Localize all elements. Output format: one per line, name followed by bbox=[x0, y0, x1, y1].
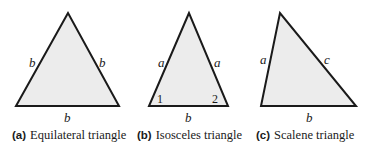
caption-tag: (c) bbox=[256, 129, 270, 141]
side-label-base: b bbox=[306, 110, 313, 125]
angle-label-1: 1 bbox=[157, 92, 163, 106]
angle-label-2: 2 bbox=[212, 92, 218, 106]
caption-tag: (a) bbox=[12, 129, 26, 141]
side-label-left: b bbox=[29, 55, 36, 70]
caption-isosceles: (b)Isosceles triangle bbox=[137, 128, 242, 143]
caption-text: Scalene triangle bbox=[274, 128, 354, 142]
side-label-left: a bbox=[260, 52, 267, 67]
side-label-base: b bbox=[185, 110, 192, 125]
isosceles-triangle: a a b 1 2 bbox=[149, 13, 228, 125]
scalene-triangle: a c b bbox=[260, 13, 356, 125]
side-label-right: a bbox=[214, 55, 221, 70]
side-label-base: b bbox=[64, 110, 71, 125]
triangles-diagram: b b b a a b 1 2 a c b bbox=[0, 0, 368, 146]
side-label-right: c bbox=[324, 52, 330, 67]
caption-tag: (b) bbox=[137, 129, 152, 141]
side-label-left: a bbox=[158, 55, 165, 70]
caption-scalene: (c)Scalene triangle bbox=[256, 128, 354, 143]
caption-equilateral: (a)Equilateral triangle bbox=[12, 128, 126, 143]
caption-text: Isosceles triangle bbox=[156, 128, 242, 142]
side-label-right: b bbox=[99, 55, 106, 70]
caption-text: Equilateral triangle bbox=[30, 128, 126, 142]
equilateral-triangle: b b b bbox=[16, 13, 119, 125]
